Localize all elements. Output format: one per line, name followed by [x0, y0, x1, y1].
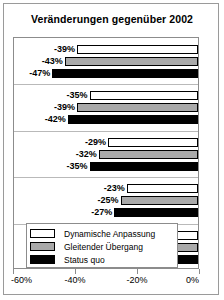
- legend-item: Gleitender Übergang: [27, 240, 177, 253]
- chart-legend: Dynamische Anpassung Gleitender Übergang…: [26, 223, 178, 268]
- group-separator: [14, 131, 198, 132]
- bar-group: -35%-39%-42%: [14, 84, 198, 130]
- axis-tick-label: -20%: [126, 275, 147, 285]
- bar-value-label: -27%: [91, 207, 112, 217]
- bar-value-label: -29%: [85, 137, 106, 147]
- bar: [90, 91, 199, 100]
- bar-value-label: -43%: [42, 56, 63, 66]
- legend-swatch-status-quo: [30, 255, 55, 264]
- legend-item: Dynamische Anpassung: [27, 227, 177, 240]
- bar-value-label: -39%: [54, 44, 75, 54]
- chart-frame: Veränderungen gegenüber 2002 -39%-43%-47…: [3, 3, 219, 295]
- bar: [114, 208, 198, 217]
- legend-label: Status quo: [64, 255, 105, 265]
- legend-item: Status quo: [27, 253, 177, 266]
- bar: [108, 138, 198, 147]
- bar: [77, 45, 198, 54]
- bar: [52, 69, 198, 78]
- legend-swatch-dynamische-anpassung: [30, 229, 55, 238]
- bar-value-label: -35%: [66, 90, 87, 100]
- legend-label: Gleitender Übergang: [64, 242, 143, 252]
- bar-value-label: -23%: [104, 183, 125, 193]
- axis-tick: [199, 269, 200, 274]
- bar: [121, 196, 199, 205]
- axis-tick: [75, 269, 76, 274]
- bar-value-label: -25%: [97, 195, 118, 205]
- bar-group: -39%-43%-47%: [14, 38, 198, 84]
- chart-title: Veränderungen gegenüber 2002: [4, 13, 220, 25]
- group-separator: [14, 177, 198, 178]
- bar-value-label: -39%: [54, 102, 75, 112]
- axis-tick: [137, 269, 138, 274]
- bar-value-label: -35%: [66, 161, 87, 171]
- bar: [77, 103, 198, 112]
- bar-group: -29%-32%-35%: [14, 131, 198, 177]
- axis-tick-label: 0%: [186, 275, 199, 285]
- bar-group: -23%-25%-27%: [14, 177, 198, 223]
- bar-value-label: -32%: [76, 149, 97, 159]
- bar: [90, 162, 199, 171]
- axis-tick-label: -60%: [11, 275, 32, 285]
- bar: [65, 57, 198, 66]
- group-separator: [14, 84, 198, 85]
- axis-tick: [13, 269, 14, 274]
- bar-value-label: -42%: [45, 114, 66, 124]
- bar: [127, 184, 198, 193]
- legend-swatch-gleitender-uebergang: [30, 242, 55, 251]
- bar-value-label: -47%: [29, 68, 50, 78]
- bar: [68, 115, 198, 124]
- bar: [99, 150, 198, 159]
- axis-tick-label: -40%: [64, 275, 85, 285]
- legend-label: Dynamische Anpassung: [64, 229, 155, 239]
